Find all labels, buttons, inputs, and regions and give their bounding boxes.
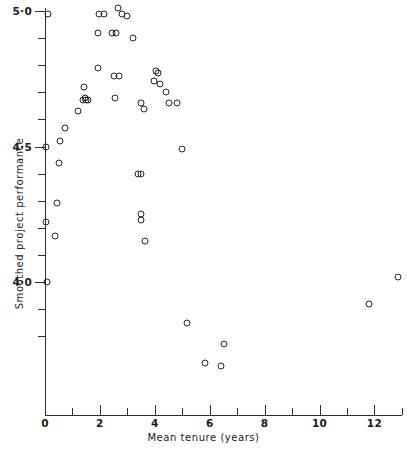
data-point (394, 273, 401, 280)
x-axis-title: Mean tenure (years) (0, 432, 407, 443)
data-point (142, 238, 149, 245)
data-point (124, 13, 131, 20)
data-point (156, 81, 163, 88)
data-point (44, 279, 51, 286)
y-axis-title: Smoothed project performance (14, 119, 25, 329)
data-point (138, 170, 145, 177)
data-point (220, 341, 227, 348)
data-point (201, 360, 208, 367)
data-point (217, 363, 224, 370)
data-point (52, 232, 59, 239)
data-point (44, 10, 51, 17)
data-point (111, 94, 118, 101)
data-point (365, 300, 372, 307)
data-point (184, 319, 191, 326)
data-point (94, 29, 101, 36)
data-point (130, 35, 137, 42)
data-point (141, 105, 148, 112)
data-point (57, 138, 64, 145)
data-point (53, 200, 60, 207)
scatter-plot-figure: 4·04·55·0 024681012 Mean tenure (years) … (0, 0, 407, 455)
data-point (166, 100, 173, 107)
data-point (75, 108, 82, 115)
data-point (115, 73, 122, 80)
data-point (43, 219, 50, 226)
data-point (61, 124, 68, 131)
data-point (101, 10, 108, 17)
data-point-group (0, 0, 407, 455)
data-point (113, 29, 120, 36)
data-point (94, 64, 101, 71)
data-point (178, 146, 185, 153)
data-point (55, 159, 62, 166)
data-point (84, 97, 91, 104)
data-point (137, 216, 144, 223)
data-point (80, 83, 87, 90)
data-point (173, 100, 180, 107)
data-point (162, 89, 169, 96)
data-point (43, 143, 50, 150)
data-point (155, 70, 162, 77)
